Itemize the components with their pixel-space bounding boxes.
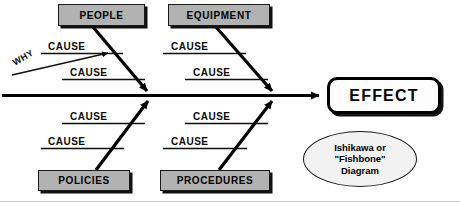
category-box-equipment[interactable]: EQUIPMENT (168, 4, 270, 26)
cause-label-policies-1: CAUSE (70, 111, 108, 122)
category-label-procedures: PROCEDURES (177, 175, 254, 186)
bone-people (93, 27, 147, 91)
cause-label-procedures-2: CAUSE (171, 136, 209, 147)
category-label-people: PEOPLE (79, 10, 123, 21)
caption-line-2: "Fishbone" (334, 153, 385, 165)
cause-label-people-1: CAUSE (48, 41, 86, 52)
cause-label-people-2: CAUSE (70, 67, 108, 78)
cause-label-equipment-2: CAUSE (193, 67, 231, 78)
cause-label-policies-2: CAUSE (48, 136, 86, 147)
fishbone-diagram-canvas: PEOPLE EQUIPMENT POLICIES PROCEDURES EFF… (0, 0, 460, 206)
bone-equipment (216, 27, 272, 91)
category-label-policies: POLICIES (58, 175, 109, 186)
cause-label-procedures-1: CAUSE (193, 111, 231, 122)
cause-label-equipment-1: CAUSE (171, 41, 209, 52)
category-box-people[interactable]: PEOPLE (58, 4, 145, 26)
effect-box[interactable]: EFFECT (327, 77, 441, 114)
category-box-procedures[interactable]: PROCEDURES (160, 170, 270, 191)
category-label-equipment: EQUIPMENT (187, 10, 252, 21)
category-box-policies[interactable]: POLICIES (38, 170, 130, 191)
footer-divider (0, 201, 460, 202)
caption-line-1: Ishikawa or (334, 142, 386, 154)
effect-label: EFFECT (349, 87, 418, 105)
caption-ellipse: Ishikawa or "Fishbone" Diagram (303, 131, 417, 187)
caption-line-3: Diagram (341, 165, 379, 177)
